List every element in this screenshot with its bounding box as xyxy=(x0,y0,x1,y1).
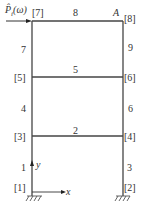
y-axis-arrow-icon xyxy=(30,160,34,166)
member-2: 2 xyxy=(73,126,78,136)
node-4: [4] xyxy=(124,132,136,142)
fixed-support-icon xyxy=(26,196,42,201)
node-3: [3] xyxy=(14,132,26,142)
node-7: [7] xyxy=(32,8,44,18)
member-7: 7 xyxy=(21,45,26,55)
node-1: [1] xyxy=(14,183,26,193)
load-arrow-icon xyxy=(6,19,32,23)
node-5: [5] xyxy=(14,73,26,83)
member-9: 9 xyxy=(128,43,133,53)
fixed-support-icon xyxy=(115,196,130,201)
load-label: P̂i(ω) xyxy=(5,5,27,19)
member-6: 6 xyxy=(128,104,133,114)
member-8: 8 xyxy=(73,8,78,18)
x-axis-arrow-icon xyxy=(32,190,66,194)
node-2: [2] xyxy=(124,183,136,193)
member-4: 4 xyxy=(21,104,26,114)
member-1: 1 xyxy=(21,163,26,173)
axis-x-label: x xyxy=(66,187,70,197)
node-6: [6] xyxy=(124,73,136,83)
point-a: A xyxy=(113,8,119,18)
node-8: [8] xyxy=(124,14,136,24)
member-5: 5 xyxy=(73,65,78,75)
member-3: 3 xyxy=(127,163,132,173)
axis-y-label: y xyxy=(36,160,40,170)
